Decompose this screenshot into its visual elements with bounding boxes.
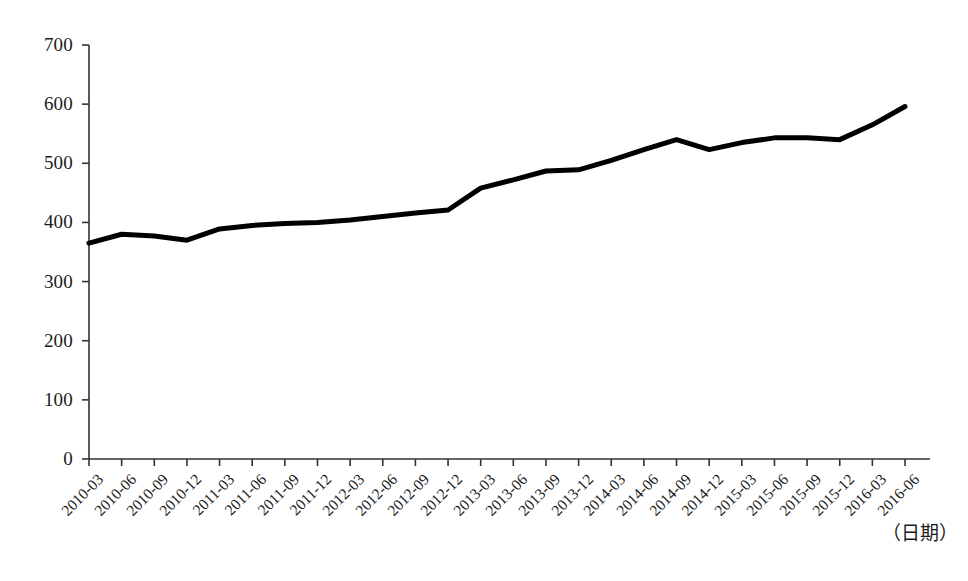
y-axis-tick-label: 0 (0, 449, 73, 468)
y-axis-tick-label: 300 (0, 272, 73, 291)
y-axis-ticks (82, 45, 89, 459)
y-axis-tick-label: 400 (0, 212, 73, 231)
chart-container: 0100200300400500600700 2010-032010-06201… (0, 0, 968, 581)
y-axis-tick-label: 700 (0, 35, 73, 54)
y-axis-tick-label: 500 (0, 153, 73, 172)
y-axis-tick-label: 100 (0, 390, 73, 409)
x-axis-ticks (89, 459, 905, 466)
x-axis-title: （日期） (882, 524, 958, 543)
y-axis-tick-label: 600 (0, 94, 73, 113)
data-series-line (89, 107, 905, 244)
y-axis-tick-label: 200 (0, 331, 73, 350)
